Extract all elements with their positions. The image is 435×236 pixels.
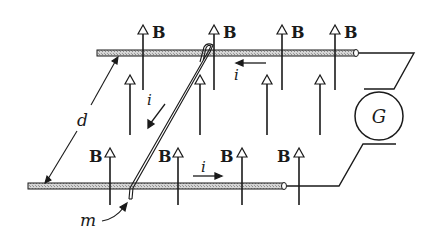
field-label-top-2: B <box>223 23 237 42</box>
current-label-bottom-rail: i <box>201 158 206 176</box>
field-arrows-middle <box>125 75 325 135</box>
separation-label: d <box>77 110 88 130</box>
galvanometer-label: G <box>372 106 386 127</box>
current-label-top-rail: i <box>234 66 239 84</box>
current-label-rod: i <box>147 91 152 109</box>
field-label-bottom-2: B <box>158 147 172 166</box>
rod-label: m <box>80 210 96 230</box>
field-label-top-3: B <box>291 23 305 42</box>
galvanometer: G <box>355 92 403 140</box>
field-label-bottom-4: B <box>277 147 291 166</box>
bottom-rail <box>28 183 287 190</box>
rod-pointer <box>102 203 127 221</box>
field-label-top-4: B <box>344 23 358 42</box>
top-rail <box>97 50 359 57</box>
field-arrows-top <box>138 25 340 90</box>
field-label-top-1: B <box>152 23 166 42</box>
field-label-bottom-1: B <box>89 147 103 166</box>
field-label-bottom-3: B <box>220 147 234 166</box>
rail-diagram: G B B B B B B B B <box>0 0 435 236</box>
